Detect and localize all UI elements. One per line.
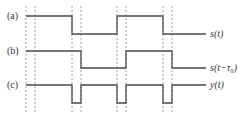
- timing-diagram: (a) s(t) (b) s(t−τ₀) (c) y(t): [0, 0, 246, 120]
- signal-label-s-delayed: s(t−τ₀): [210, 62, 238, 74]
- panel-label-b: (b): [7, 45, 19, 57]
- waveform-s-t: [26, 16, 206, 34]
- panel-label-c: (c): [7, 79, 18, 91]
- waveform-y-t: [26, 85, 206, 103]
- signal-label-y-t: y(t): [209, 79, 225, 91]
- panel-label-a: (a): [7, 10, 18, 22]
- dashed-guides: [26, 6, 172, 112]
- signal-label-s-t: s(t): [210, 28, 224, 40]
- panel-b: (b) s(t−τ₀): [7, 45, 238, 74]
- panel-c: (c) y(t): [7, 79, 225, 103]
- waveform-s-delayed: [26, 51, 206, 68]
- panel-a: (a) s(t): [7, 10, 224, 40]
